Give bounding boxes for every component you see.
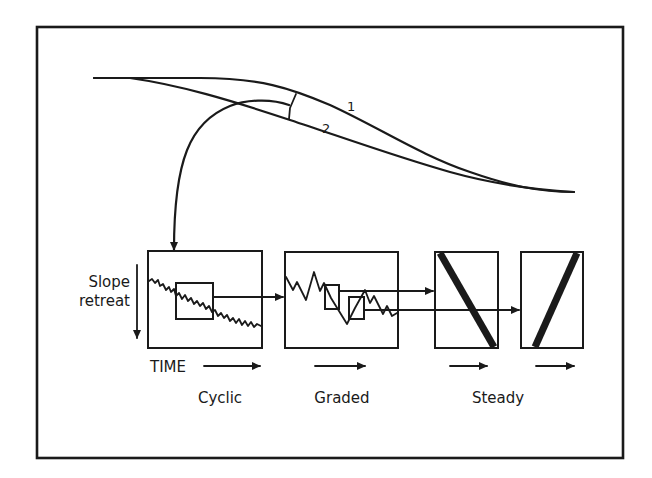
profile-gap-bracket — [289, 94, 296, 119]
steady-trace-2 — [535, 253, 577, 347]
zoom-window — [176, 283, 213, 319]
panel-frame — [148, 251, 262, 348]
label-graded: Graded — [314, 389, 369, 407]
steady-trace-1 — [440, 253, 494, 347]
profile-label-1: 1 — [347, 99, 355, 114]
panel-frame — [285, 252, 398, 348]
label-steady: Steady — [472, 389, 524, 407]
vertical-axis: Slope retreat — [79, 265, 137, 338]
slope-profile-2 — [94, 78, 574, 192]
axis-label-retreat: retreat — [79, 292, 130, 310]
slope-profiles: 1 2 — [94, 78, 574, 192]
axis-label-slope: Slope — [88, 273, 130, 291]
graded-trace — [286, 272, 397, 324]
connector-arrow — [174, 101, 289, 250]
panel-steady-2 — [521, 252, 583, 348]
label-cyclic: Cyclic — [198, 389, 242, 407]
slope-retreat-diagram: 1 2 Slope retreat TIME — [0, 0, 652, 478]
time-label: TIME — [149, 358, 186, 376]
time-axis: TIME — [149, 358, 574, 376]
profile-label-2: 2 — [322, 121, 330, 136]
panel-cyclic — [148, 251, 283, 348]
regime-labels: Cyclic Graded Steady — [198, 389, 524, 407]
panel-steady-1 — [435, 252, 498, 348]
